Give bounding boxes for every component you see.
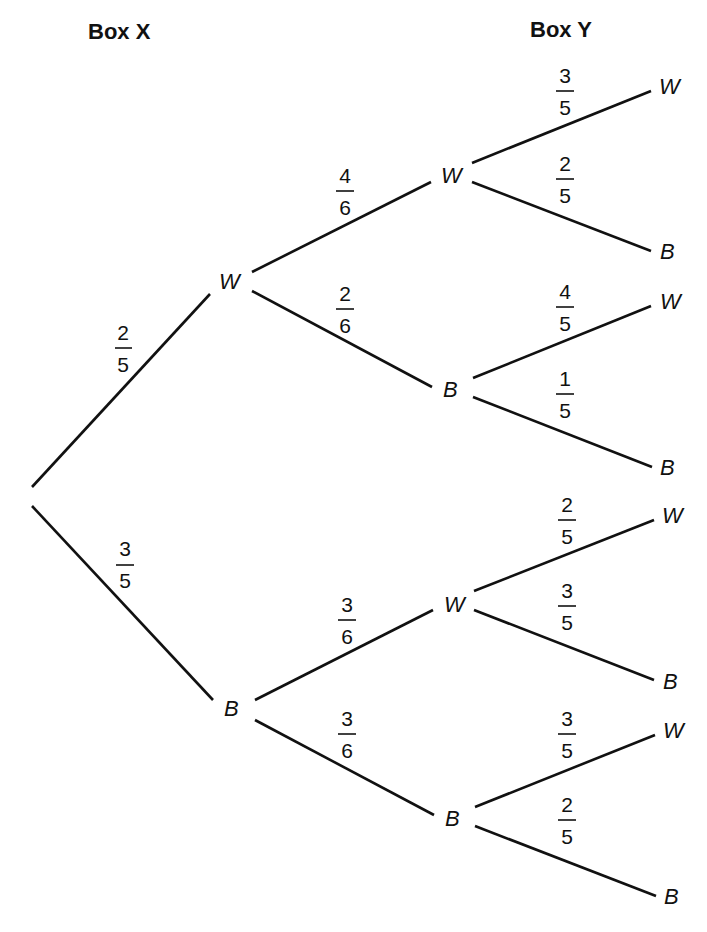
fraction-W-WW: 4 6 xyxy=(336,164,354,219)
header-box-x: Box X xyxy=(88,19,151,44)
leaf-WWB: B xyxy=(660,239,675,264)
leaf-WBW: W xyxy=(660,289,683,314)
fraction-numerator: 3 xyxy=(561,707,573,730)
node-y-WB: B xyxy=(443,377,458,402)
fraction-denominator: 6 xyxy=(341,625,353,648)
fraction-denominator: 5 xyxy=(561,739,573,762)
edge-B-to-BW xyxy=(255,610,433,700)
fraction-numerator: 4 xyxy=(559,280,571,303)
fraction-BW-BWB: 3 5 xyxy=(558,579,576,634)
fraction-root-B: 3 5 xyxy=(116,537,134,592)
node-y-WW: W xyxy=(441,163,464,188)
fraction-denominator: 6 xyxy=(341,739,353,762)
fraction-numerator: 1 xyxy=(559,367,571,390)
fraction-denominator: 6 xyxy=(339,314,351,337)
fraction-denominator: 5 xyxy=(561,525,573,548)
fraction-denominator: 5 xyxy=(561,611,573,634)
leaf-BWB: B xyxy=(663,669,678,694)
leaf-WWW: W xyxy=(659,74,682,99)
fraction-numerator: 2 xyxy=(117,321,129,344)
fraction-WW-WWB: 2 5 xyxy=(556,152,574,207)
fraction-numerator: 2 xyxy=(339,282,351,305)
fraction-denominator: 5 xyxy=(117,353,129,376)
node-x-B: B xyxy=(224,696,239,721)
leaf-BWW: W xyxy=(662,503,685,528)
leaf-BBW: W xyxy=(663,718,686,743)
fraction-numerator: 2 xyxy=(559,152,571,175)
fraction-numerator: 2 xyxy=(561,793,573,816)
fraction-root-W: 2 5 xyxy=(115,321,132,376)
fraction-denominator: 5 xyxy=(119,569,131,592)
fraction-numerator: 3 xyxy=(341,707,353,730)
fraction-WW-WWW: 3 5 xyxy=(556,64,574,119)
fraction-B-BW: 3 6 xyxy=(338,593,356,648)
fraction-denominator: 5 xyxy=(559,399,571,422)
fraction-WB-WBW: 4 5 xyxy=(556,280,574,335)
leaf-WBB: B xyxy=(660,455,675,480)
fraction-BW-BWW: 2 5 xyxy=(558,493,576,548)
edge-W-to-WB xyxy=(252,291,432,387)
node-x-W: W xyxy=(219,269,242,294)
fraction-BB-BBB: 2 5 xyxy=(558,793,576,848)
fraction-numerator: 3 xyxy=(119,537,131,560)
fraction-WB-WBB: 1 5 xyxy=(556,367,574,422)
fraction-numerator: 3 xyxy=(559,64,571,87)
fraction-numerator: 3 xyxy=(341,593,353,616)
fraction-denominator: 5 xyxy=(559,312,571,335)
fraction-denominator: 5 xyxy=(559,184,571,207)
probability-tree-diagram: Box X Box Y W B 2 5 3 5 W B W B 4 6 2 6 … xyxy=(0,0,707,932)
fraction-numerator: 2 xyxy=(561,493,573,516)
fraction-numerator: 4 xyxy=(339,164,351,187)
fraction-denominator: 5 xyxy=(559,96,571,119)
fraction-denominator: 5 xyxy=(561,825,573,848)
fraction-denominator: 6 xyxy=(339,196,351,219)
header-box-y: Box Y xyxy=(530,17,592,42)
fraction-BB-BBW: 3 5 xyxy=(558,707,576,762)
edge-root-to-B xyxy=(32,506,213,700)
node-y-BB: B xyxy=(445,806,460,831)
fraction-B-BB: 3 6 xyxy=(338,707,356,762)
node-y-BW: W xyxy=(444,592,467,617)
fraction-W-WB: 2 6 xyxy=(336,282,354,337)
fraction-numerator: 3 xyxy=(561,579,573,602)
leaf-BBB: B xyxy=(664,884,679,909)
